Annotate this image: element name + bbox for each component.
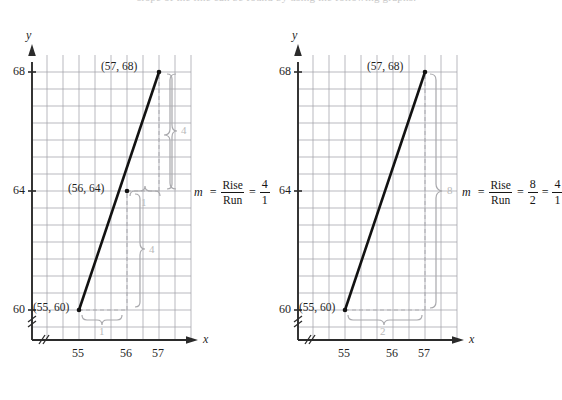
formula-equals-3: = — [542, 186, 549, 198]
brace-label-run: 2 — [380, 325, 386, 337]
formula-equals-1: = — [478, 186, 485, 198]
x-axis-arrow — [452, 336, 464, 344]
mid-numerator: 8 — [528, 178, 538, 192]
rise-word: Rise — [220, 179, 244, 192]
grid — [298, 55, 457, 340]
result-numerator: 4 — [552, 178, 562, 192]
formula-equals-1: = — [210, 186, 217, 198]
y-tick-64: 64 — [13, 183, 25, 198]
point-marker — [423, 70, 428, 75]
x-axis-label: x — [469, 332, 474, 347]
left-figure: y x 68 64 60 55 56 57 (57, 68) (56, 64) … — [0, 0, 276, 400]
point-label-55-60: (55, 60) — [33, 301, 69, 313]
formula-equals-2: = — [249, 186, 256, 198]
point-marker — [77, 308, 82, 313]
brace-rise-lower — [135, 194, 145, 307]
brace-run-lower — [82, 315, 122, 325]
brace-run — [348, 315, 422, 325]
right-figure: y x 68 64 60 55 56 57 (57, 68) (55, 60) … — [266, 0, 542, 400]
slope-formula-left: m = Rise Run = 4 1 — [194, 178, 270, 206]
y-axis-label: y — [292, 28, 297, 43]
rise-over-run-fraction: Rise Run — [220, 179, 244, 206]
result-fraction: 4 1 — [552, 178, 562, 206]
point-marker — [343, 308, 348, 313]
x-axis-arrow — [186, 336, 198, 344]
axes — [32, 62, 186, 340]
x-tick-56: 56 — [120, 346, 132, 361]
brace-label-rise: 8 — [447, 184, 453, 196]
brace-label-run-lower: 1 — [99, 325, 105, 337]
axes — [298, 62, 452, 340]
y-tick-68: 68 — [13, 64, 25, 79]
point-label-56-64: (56, 64) — [68, 182, 104, 194]
x-tick-57: 57 — [418, 346, 430, 361]
point-marker — [125, 189, 130, 194]
y-tick-60: 60 — [13, 302, 25, 317]
grid — [32, 55, 191, 340]
point-marker — [157, 70, 162, 75]
brace-label-rise-lower: 4 — [149, 243, 155, 255]
point-label-55-60: (55, 60) — [299, 301, 335, 313]
rise-word: Rise — [488, 179, 512, 192]
run-word: Run — [489, 192, 512, 206]
y-tick-60: 60 — [279, 302, 291, 317]
point-label-57-68: (57, 68) — [367, 60, 403, 72]
x-tick-55: 55 — [72, 346, 84, 361]
y-axis-label: y — [26, 28, 31, 43]
brace-label-run-upper: 1 — [141, 196, 147, 208]
x-tick-55: 55 — [338, 346, 350, 361]
y-axis-arrow — [294, 44, 302, 56]
brace-label-rise-upper: 4 — [181, 124, 187, 136]
y-tick-64: 64 — [279, 183, 291, 198]
rise-over-run-fraction: Rise Run — [488, 179, 512, 206]
y-tick-68: 68 — [279, 64, 291, 79]
slope-formula-right: m = Rise Run = 8 2 = 4 1 — [462, 178, 562, 206]
run-word: Run — [221, 192, 244, 206]
mid-fraction: 8 2 — [528, 178, 538, 206]
point-label-57-68: (57, 68) — [101, 60, 137, 72]
x-tick-57: 57 — [152, 346, 164, 361]
formula-m: m — [194, 186, 203, 198]
x-axis-label: x — [203, 332, 208, 347]
mid-denominator: 2 — [528, 192, 538, 207]
y-axis-arrow — [28, 44, 36, 56]
brace-rise-upper-draw — [167, 74, 177, 189]
formula-m: m — [462, 186, 471, 198]
x-tick-56: 56 — [386, 346, 398, 361]
formula-equals-2: = — [517, 186, 524, 198]
result-denominator: 1 — [552, 192, 562, 207]
